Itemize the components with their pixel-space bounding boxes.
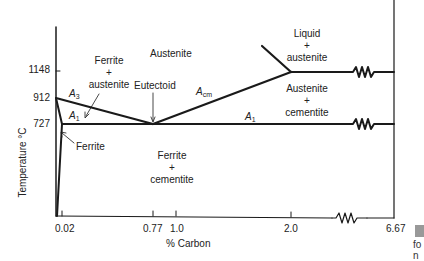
region-austenite: Austenite: [150, 48, 192, 60]
x-axis-label: % Carbon: [166, 238, 210, 249]
a1-label-left: A1: [69, 110, 80, 125]
a3-subscript: 3: [76, 93, 80, 100]
y-axis-label: Temperature °C: [17, 123, 28, 203]
region-liquid-austenite: Liquid + austenite: [282, 28, 332, 64]
cropped-caption-marker: [415, 225, 424, 237]
region-line: +: [147, 162, 197, 174]
region-line: cementite: [147, 174, 197, 186]
x-tick-label-0.02: 0.02: [55, 223, 74, 234]
x-tick-label-0.77: 0.77: [143, 223, 162, 234]
cropped-caption-text-1: fo: [413, 239, 421, 250]
x-tick-label-1.0: 1.0: [170, 223, 184, 234]
region-line: austenite: [282, 52, 332, 64]
eutectoid-label: Eutectoid: [134, 80, 176, 92]
a1-subscript: 1: [76, 115, 80, 122]
a1-subscript: 1: [252, 116, 256, 123]
a3-label: A3: [69, 88, 80, 103]
x-tick-label-6.67: 6.67: [386, 223, 405, 234]
region-line: +: [280, 95, 334, 107]
eutectic-zigzag: [350, 67, 394, 77]
y-tick-label-912: 912: [16, 92, 50, 103]
cropped-caption-text-2: n: [413, 250, 419, 261]
acm-letter: A: [196, 86, 203, 97]
a3-letter: A: [69, 88, 76, 99]
phase-diagram: [0, 0, 424, 261]
ferrite-boundary: [56, 98, 62, 216]
y-tick-label-1148: 1148: [16, 64, 50, 75]
region-austenite-cementite: Austenite + cementite: [280, 83, 334, 119]
a1-label-right: A1: [245, 111, 256, 126]
x-tick-label-2.0: 2.0: [284, 223, 298, 234]
region-line: +: [282, 40, 332, 52]
region-ferrite-austenite: Ferrite + austenite: [84, 55, 134, 91]
acm-subscript: cm: [203, 91, 212, 98]
region-ferrite: Ferrite: [76, 141, 105, 153]
axis-break-zigzag: [332, 213, 367, 223]
a1-letter: A: [69, 110, 76, 121]
region-line: cementite: [280, 107, 334, 119]
region-line: Liquid: [282, 28, 332, 40]
region-line: Ferrite: [84, 55, 134, 67]
ferrite-austenite-arrow: [86, 94, 99, 116]
acm-label: Acm: [196, 86, 212, 101]
region-line: +: [84, 67, 134, 79]
ferrite-arrow: [62, 133, 74, 143]
region-line: Austenite: [280, 83, 334, 95]
a1-zigzag: [350, 119, 394, 129]
region-line: Ferrite: [147, 150, 197, 162]
a1-letter: A: [245, 111, 252, 122]
region-ferrite-cementite: Ferrite + cementite: [147, 150, 197, 186]
region-line: austenite: [84, 79, 134, 91]
